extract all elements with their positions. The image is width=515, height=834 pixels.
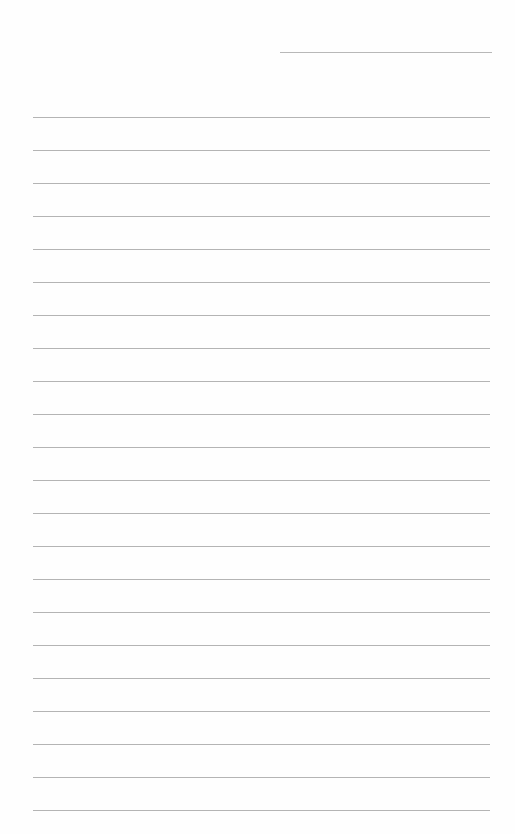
ruled-line [33, 348, 490, 349]
ruled-line [33, 216, 490, 217]
header-name-line [280, 52, 492, 53]
ruled-line [33, 612, 490, 613]
ruled-line [33, 447, 490, 448]
ruled-line [33, 777, 490, 778]
ruled-line [33, 315, 490, 316]
ruled-line [33, 150, 490, 151]
lined-paper-page [0, 0, 515, 834]
ruled-line [33, 810, 490, 811]
ruled-line [33, 282, 490, 283]
ruled-line [33, 546, 490, 547]
ruled-line [33, 744, 490, 745]
ruled-line [33, 711, 490, 712]
ruled-line [33, 381, 490, 382]
ruled-line [33, 183, 490, 184]
ruled-line [33, 249, 490, 250]
ruled-line [33, 414, 490, 415]
ruled-line [33, 579, 490, 580]
ruled-line [33, 678, 490, 679]
ruled-line [33, 645, 490, 646]
ruled-line [33, 480, 490, 481]
ruled-line [33, 117, 490, 118]
ruled-line [33, 513, 490, 514]
